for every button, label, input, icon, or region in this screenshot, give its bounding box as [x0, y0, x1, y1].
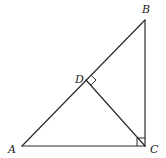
point-label-a: A [7, 143, 16, 156]
triangle-diagram: B C A D [0, 0, 166, 158]
right-angle-mark-d [91, 75, 96, 85]
point-label-b: B [141, 3, 150, 16]
segment-cd [86, 80, 145, 146]
point-label-c: C [150, 143, 159, 156]
point-label-d: D [74, 73, 84, 86]
